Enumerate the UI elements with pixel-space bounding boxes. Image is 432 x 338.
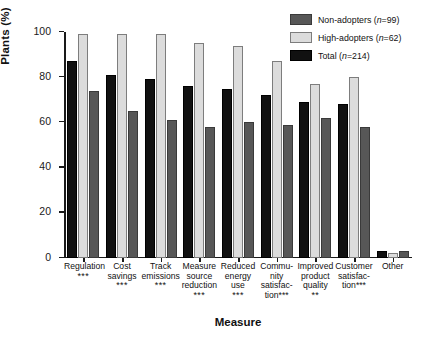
bar-high: [156, 34, 166, 258]
bar-high: [194, 43, 204, 258]
bar-group: [103, 32, 142, 258]
chart-legend: Non-adopters (n=99)High-adopters (n=62)T…: [290, 14, 401, 61]
bar-non: [360, 127, 370, 258]
legend-swatch-high: [290, 32, 312, 43]
legend-label: Non-adopters (n=99): [318, 15, 399, 25]
significance-marker: ***: [219, 291, 258, 300]
x-category-line: tion***: [257, 291, 296, 301]
bar-total: [299, 102, 309, 258]
significance-marker: ***: [180, 291, 219, 300]
bar-total: [261, 95, 271, 258]
legend-swatch-total: [290, 50, 312, 61]
x-category-line: tion***: [335, 281, 374, 291]
y-tick-label-80: 80: [39, 70, 51, 82]
bar-group: [296, 32, 335, 258]
y-axis-title: Plants (%): [0, 0, 11, 96]
bar-high: [117, 34, 127, 258]
y-tick-label-20: 20: [39, 205, 51, 217]
bars-container: [64, 32, 412, 258]
bar-non: [167, 120, 177, 258]
bar-group: [180, 32, 219, 258]
bar-non: [128, 111, 138, 258]
bar-group: [219, 32, 258, 258]
bar-total: [106, 75, 116, 258]
bar-non: [321, 118, 331, 258]
bar-high: [272, 61, 282, 258]
significance-marker: ***: [141, 281, 180, 290]
bar-total: [67, 61, 77, 258]
bar-high: [78, 34, 88, 258]
x-category-label: Improvedproductquality**: [296, 262, 335, 300]
legend-item: Total (n=214): [290, 50, 401, 61]
bar-non: [244, 122, 254, 258]
x-category-label: Regulation***: [64, 262, 103, 281]
bar-non: [89, 91, 99, 258]
bar-high: [310, 84, 320, 258]
bar-group: [141, 32, 180, 258]
x-category-label: Costsavings***: [103, 262, 142, 290]
bar-high: [349, 77, 359, 258]
bar-total: [377, 251, 387, 258]
x-category-label: Commu-nitysatisfac-tion***: [257, 262, 296, 300]
significance-marker: ***: [64, 272, 103, 281]
bar-group: [257, 32, 296, 258]
x-category-label: Other: [373, 262, 412, 272]
bar-total: [222, 89, 232, 259]
bar-non: [283, 125, 293, 258]
x-category-line: Other: [373, 262, 412, 272]
legend-item: High-adopters (n=62): [290, 32, 401, 43]
legend-item: Non-adopters (n=99): [290, 14, 401, 25]
legend-swatch-non: [290, 14, 312, 25]
significance-marker: **: [296, 291, 335, 300]
legend-label: Total (n=214): [318, 51, 370, 61]
y-tick-label-60: 60: [39, 115, 51, 127]
bar-high: [233, 46, 243, 258]
legend-label: High-adopters (n=62): [318, 33, 401, 43]
bar-chart-figure: Plants (%) 020406080100 Regulation***Cos…: [0, 0, 432, 338]
y-tick-label-0: 0: [45, 251, 51, 263]
x-axis-title: Measure: [64, 316, 412, 328]
x-category-label: Measuresourcereduction***: [180, 262, 219, 300]
bar-group: [64, 32, 103, 258]
bar-group: [373, 32, 412, 258]
significance-marker: ***: [103, 281, 142, 290]
y-tick-label-100: 100: [33, 25, 51, 37]
bar-total: [145, 79, 155, 258]
y-tick-label-40: 40: [39, 160, 51, 172]
x-category-label: Reducedenergyuse***: [219, 262, 258, 300]
bar-non: [399, 251, 409, 258]
bar-non: [205, 127, 215, 258]
bar-total: [183, 86, 193, 258]
x-axis-category-labels: Regulation***Costsavings***Trackemission…: [64, 262, 412, 314]
bar-total: [338, 104, 348, 258]
x-category-label: Customersatisfac-tion***: [335, 262, 374, 291]
bar-group: [335, 32, 374, 258]
x-category-label: Trackemissions***: [141, 262, 180, 290]
plot-area: 020406080100: [64, 32, 412, 258]
